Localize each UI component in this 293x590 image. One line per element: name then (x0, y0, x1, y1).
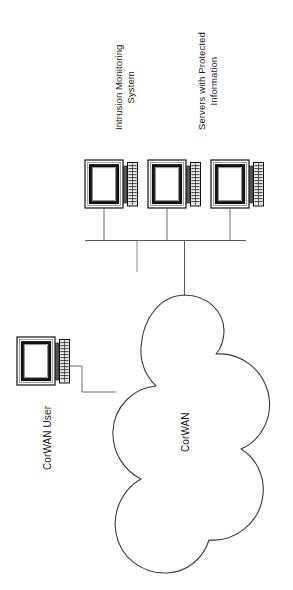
label-ims-line1: Intrusion Monitoring (113, 45, 125, 130)
label-intrusion-monitoring-system: Intrusion Monitoring System (113, 45, 136, 130)
label-corwan-cloud: CorWAN (180, 412, 192, 452)
computer-intrusion-monitoring-system[interactable] (85, 160, 138, 208)
label-servers-with-protected-information: Servers with Protected Information (196, 32, 219, 130)
label-ims-line2: System (125, 45, 137, 130)
link-user-to-cloud (69, 366, 116, 392)
diagram-canvas (0, 0, 293, 590)
label-servers-line2: Information (208, 32, 220, 130)
computer-protected-server-2[interactable] (211, 160, 264, 208)
label-servers-line1: Servers with Protected (196, 32, 208, 130)
label-corwan-user: CorWAN User (42, 406, 54, 470)
computer-drop-lines (104, 208, 230, 240)
computer-protected-server-1[interactable] (148, 160, 201, 208)
computer-corwan-user[interactable] (17, 337, 70, 385)
network-diagram: Intrusion Monitoring System Servers with… (0, 0, 293, 590)
